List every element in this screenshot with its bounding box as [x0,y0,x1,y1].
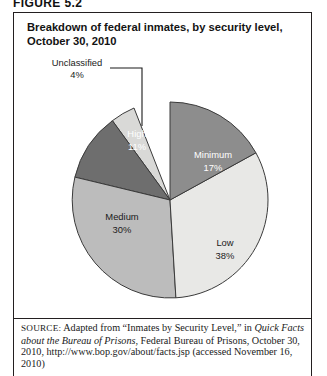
minimum-label-name: Minimum [194,149,232,160]
low-label-name: Low [216,237,233,248]
medium-label: Medium [105,211,139,222]
unclassified-label: Unclassified [52,57,103,68]
source-text-1: Adapted from “Inmates by Security Level,… [61,322,254,333]
pie-chart: Unclassified 4% Minimum 17% Low 38% Medi… [14,46,312,318]
source-divider [14,318,311,319]
high-label: High [127,128,146,139]
low-value: 38% [216,250,235,261]
source-prefix: SOURCE: [21,323,61,333]
pie-chart-svg: Unclassified 4% Minimum 17% Low 38% Medi… [14,46,312,318]
medium-value-text: 30% [113,224,132,235]
unclassified-value-text: 4% [70,69,84,80]
low-label: Low [216,237,233,248]
unclassified-value: 4% [70,69,84,80]
chart-title: Breakdown of federal inmates, by securit… [27,21,299,48]
high-label-name: High [127,128,146,139]
high-value: 11% [128,141,146,152]
medium-value: 30% [113,224,132,235]
minimum-value: 17% [204,162,223,173]
high-value-text: 11% [128,141,146,152]
minimum-label: Minimum [194,149,232,160]
low-value-text: 38% [216,250,235,261]
medium-label-name: Medium [105,211,139,222]
source-citation: SOURCE: Adapted from “Inmates by Securit… [21,322,305,369]
minimum-value-text: 17% [204,162,223,173]
figure-number-label: FIGURE 5.2 [13,0,82,10]
unclassified-label-name: Unclassified [52,57,103,68]
